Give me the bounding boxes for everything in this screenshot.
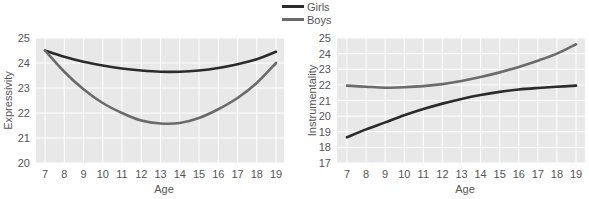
y-tick-label: 24: [18, 57, 30, 69]
x-tick-label: 18: [551, 168, 563, 180]
y-axis-label: Expressivity: [2, 71, 14, 130]
x-tick-label: 16: [212, 168, 224, 180]
x-tick-label: 10: [398, 168, 410, 180]
y-tick-label: 20: [319, 110, 331, 122]
x-tick-label: 7: [344, 168, 350, 180]
y-tick-label: 24: [319, 48, 331, 60]
y-tick-label: 21: [18, 132, 30, 144]
x-tick-label: 11: [418, 168, 429, 180]
x-axis-label: Age: [154, 183, 174, 195]
x-tick-label: 13: [154, 168, 166, 180]
x-tick-label: 11: [116, 168, 127, 180]
y-tick-label: 23: [18, 82, 30, 94]
x-tick-label: 16: [513, 168, 525, 180]
x-tick-label: 10: [97, 168, 109, 180]
y-tick-label: 20: [18, 157, 30, 169]
x-tick-label: 14: [174, 168, 186, 180]
x-tick-label: 14: [474, 168, 486, 180]
x-tick-label: 19: [570, 168, 582, 180]
y-tick-label: 22: [319, 79, 331, 91]
x-tick-label: 15: [494, 168, 506, 180]
x-tick-label: 7: [42, 168, 48, 180]
y-tick-label: 22: [18, 107, 30, 119]
x-tick-label: 17: [532, 168, 544, 180]
x-tick-label: 15: [193, 168, 205, 180]
y-tick-label: 18: [319, 141, 331, 153]
y-axis-label: Instrumentality: [306, 64, 318, 136]
y-tick-label: 25: [319, 32, 331, 44]
x-tick-label: 13: [455, 168, 467, 180]
y-tick-label: 25: [18, 32, 30, 44]
chart-expressivity: 20212223242578910111213141516171819AgeEx…: [2, 32, 284, 195]
x-tick-label: 9: [382, 168, 388, 180]
x-tick-label: 12: [135, 168, 147, 180]
x-tick-label: 12: [436, 168, 448, 180]
x-tick-label: 17: [231, 168, 243, 180]
x-tick-label: 8: [61, 168, 67, 180]
x-axis-label: Age: [455, 183, 475, 195]
y-tick-label: 23: [319, 63, 331, 75]
y-tick-label: 21: [319, 95, 331, 107]
y-tick-label: 17: [319, 157, 331, 169]
x-tick-label: 9: [80, 168, 86, 180]
y-tick-label: 19: [319, 126, 331, 138]
x-tick-label: 8: [363, 168, 369, 180]
x-tick-label: 19: [270, 168, 282, 180]
charts-canvas: 20212223242578910111213141516171819AgeEx…: [0, 0, 589, 199]
x-tick-label: 18: [251, 168, 263, 180]
chart-instrumentality: 1718192021222324257891011121314151617181…: [306, 32, 585, 195]
